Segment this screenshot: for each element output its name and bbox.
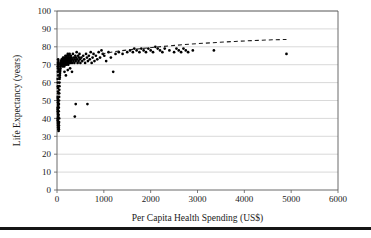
data-point [88,58,91,61]
data-point [58,88,61,91]
data-point [57,58,60,61]
scatter-chart: 0102030405060708090100010002000300040005… [0,0,371,238]
data-point [159,49,162,52]
data-point [88,54,91,57]
data-point [97,51,100,54]
y-tick-label-0: 0 [47,185,52,195]
data-point [152,51,155,54]
x-tick-label-3000: 3000 [189,194,208,204]
x-tick-label-5000: 5000 [282,194,301,204]
data-point [72,53,75,56]
data-point [187,51,190,54]
data-point [57,113,60,116]
data-point [175,47,178,50]
data-point [86,103,89,106]
data-point [105,60,108,63]
data-point [142,49,145,52]
y-tick-label-10: 10 [42,167,52,177]
data-point [161,51,164,54]
data-point [163,47,166,50]
data-point [145,51,148,54]
data-point [156,47,159,50]
data-point [213,49,216,52]
y-tick-group: 0102030405060708090100 [38,6,58,195]
y-tick-label-30: 30 [42,132,52,142]
data-point [85,53,88,56]
y-tick-label-60: 60 [42,78,52,88]
data-point [58,124,61,127]
data-point [173,51,176,54]
data-point [65,74,68,77]
data-point [75,51,78,54]
data-point [147,47,150,50]
gridlines-group [57,11,338,172]
data-point [90,62,93,65]
data-point [83,58,86,61]
data-point [78,53,81,56]
data-point [110,56,113,59]
data-point [57,106,60,109]
data-point [191,49,194,52]
x-tick-label-4000: 4000 [235,194,254,204]
data-point [138,51,141,54]
data-point [285,53,288,56]
data-point [140,47,143,50]
data-point [99,56,102,59]
data-point [92,53,95,56]
figure-container: 0102030405060708090100010002000300040005… [0,0,371,238]
y-tick-label-40: 40 [42,114,52,124]
x-axis-title: Per Capita Health Spending (US$) [132,213,263,224]
data-point [133,47,136,50]
bottom-divider-rule [0,227,371,230]
y-tick-label-90: 90 [42,24,52,34]
x-tick-label-6000: 6000 [329,194,348,204]
data-point [82,54,85,57]
data-point [154,45,157,48]
data-point [69,67,72,70]
data-point [58,96,61,99]
data-point [112,71,115,74]
data-point [84,62,87,65]
data-point [126,51,129,54]
data-point [58,99,61,102]
y-axis-title: Life Expectancy (years) [12,55,23,146]
data-point [73,115,76,118]
data-point [63,71,66,74]
data-point [177,49,180,52]
data-point [74,103,77,106]
data-point [58,103,61,106]
y-tick-label-80: 80 [42,42,52,52]
y-tick-label-20: 20 [42,149,52,159]
data-point [149,49,152,52]
data-point [132,51,135,54]
data-point [168,49,171,52]
data-point [89,51,92,54]
x-tick-label-2000: 2000 [142,194,161,204]
x-tick-label-1000: 1000 [95,194,114,204]
data-point [66,69,69,72]
x-tick-label-0: 0 [55,194,60,204]
data-point [180,51,183,54]
data-point [182,47,185,50]
y-tick-label-100: 100 [38,6,52,16]
data-point [184,49,187,52]
data-point [58,81,61,84]
data-point [57,62,60,65]
data-point [57,110,60,113]
data-point [121,53,124,56]
data-point [114,53,117,56]
data-point [103,54,106,57]
x-tick-group: 0100020003000400050006000 [55,190,348,204]
data-point [91,56,94,59]
data-point [58,117,61,120]
data-point [58,92,61,95]
data-point [58,128,61,131]
data-point [93,60,96,63]
data-point [58,121,61,124]
data-point [58,85,61,88]
data-point [96,58,99,61]
data-point [71,71,74,74]
data-point [100,49,103,52]
y-tick-label-50: 50 [42,96,52,106]
y-tick-label-70: 70 [42,60,52,70]
